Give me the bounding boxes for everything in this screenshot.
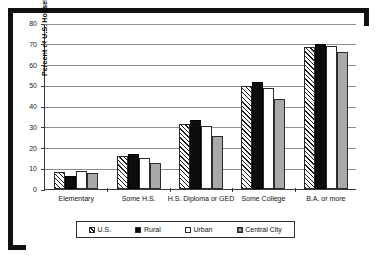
x-tick-mark — [232, 188, 233, 192]
y-tick-label: 40 — [15, 103, 37, 110]
bar — [65, 176, 76, 189]
bar — [304, 47, 315, 189]
x-tick-mark — [107, 188, 108, 192]
y-tick-label: 70 — [15, 41, 37, 48]
legend-label: Central City — [245, 226, 282, 234]
bar — [337, 52, 348, 189]
y-tick-label: 30 — [15, 124, 37, 131]
chart-legend: U.S.RuralUrbanCentral City — [76, 221, 295, 238]
x-tick-mark — [170, 188, 171, 192]
legend-swatch-icon — [237, 227, 243, 233]
chart-figure: Percent of U.S. Households 0102030405060… — [0, 0, 377, 258]
bar — [117, 156, 128, 189]
y-tick-label: 10 — [15, 165, 37, 172]
legend-label: Rural — [144, 226, 161, 234]
plot-area: Percent of U.S. Households 0102030405060… — [44, 24, 356, 190]
y-tick-label: 20 — [15, 145, 37, 152]
bar — [201, 126, 212, 189]
bar — [150, 163, 161, 189]
legend-item[interactable]: Central City — [237, 226, 282, 234]
y-tick-label: 60 — [15, 62, 37, 69]
legend-swatch-icon — [135, 227, 141, 233]
x-tick-mark — [295, 188, 296, 192]
y-tick-label: 50 — [15, 82, 37, 89]
y-tick-label: 0 — [15, 186, 37, 193]
bar-group — [232, 24, 294, 189]
y-tick-mark — [41, 190, 45, 191]
bar — [241, 86, 252, 189]
bar-group — [107, 24, 169, 189]
bar — [212, 136, 223, 189]
bar — [76, 171, 87, 189]
bar — [274, 99, 285, 189]
x-axis-label: B.A. or more — [287, 195, 365, 204]
bar-group — [295, 24, 357, 189]
legend-item[interactable]: Urban — [185, 226, 213, 234]
y-tick-label: 80 — [15, 20, 37, 27]
legend-item[interactable]: Rural — [135, 226, 160, 234]
legend-item[interactable]: U.S. — [89, 226, 111, 234]
legend-swatch-icon — [185, 227, 191, 233]
bar — [128, 154, 139, 189]
bar — [87, 173, 98, 189]
legend-swatch-icon — [89, 227, 95, 233]
bar — [190, 120, 201, 189]
bar — [315, 44, 326, 189]
bar — [179, 124, 190, 189]
bar — [252, 82, 263, 189]
bar-group — [170, 24, 232, 189]
legend-label: U.S. — [98, 226, 112, 234]
bar-group — [45, 24, 107, 189]
bar — [263, 88, 274, 189]
bar — [54, 172, 65, 189]
bar — [326, 46, 337, 189]
bar — [139, 158, 150, 189]
legend-label: Urban — [193, 226, 212, 234]
